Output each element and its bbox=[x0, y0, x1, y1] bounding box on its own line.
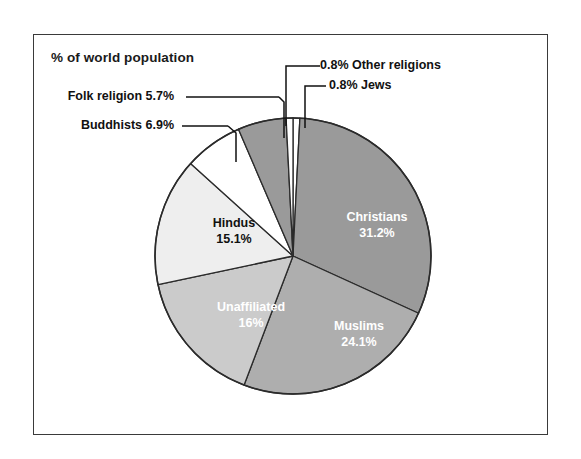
callout-label-folk-religion: Folk religion 5.7% bbox=[68, 89, 174, 103]
leader-line-other-religions bbox=[286, 66, 320, 126]
pie-slices bbox=[155, 118, 431, 394]
pie-chart bbox=[0, 0, 581, 459]
callout-label-other-religions: 0.8% Other religions bbox=[320, 58, 441, 72]
callout-label-jews: 0.8% Jews bbox=[329, 78, 392, 92]
chart-figure: % of world population Christians 31. bbox=[0, 0, 581, 459]
callout-label-buddhists: Buddhists 6.9% bbox=[81, 118, 174, 132]
